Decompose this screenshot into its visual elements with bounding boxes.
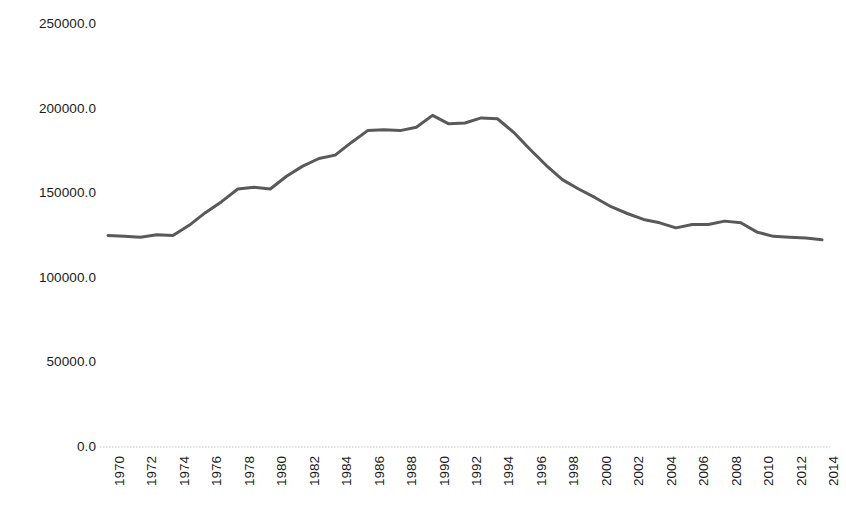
- x-axis-tick-label: 1978: [243, 456, 257, 486]
- x-axis-tick-label: 1990: [438, 456, 452, 486]
- x-axis-tick-label: 1998: [567, 456, 581, 486]
- x-axis-tick-label: 1972: [145, 456, 159, 486]
- line-chart: 0.050000.0100000.0150000.0200000.0250000…: [0, 0, 846, 517]
- x-axis-tick-label: 2008: [730, 456, 744, 486]
- x-axis-tick-label: 1984: [340, 456, 354, 486]
- x-axis-tick-label: 1974: [178, 456, 192, 486]
- x-axis-tick-label: 1994: [502, 456, 516, 486]
- x-axis-tick-label: 1970: [113, 456, 127, 486]
- x-axis-tick-label: 2006: [697, 456, 711, 486]
- x-axis-tick-label: 1986: [373, 456, 387, 486]
- x-axis-tick-label: 1996: [535, 456, 549, 486]
- x-axis-tick-label: 2002: [632, 456, 646, 486]
- x-axis-tick-label: 1976: [210, 456, 224, 486]
- x-axis-tick-label: 1988: [405, 456, 419, 486]
- x-axis-tick-label: 2014: [827, 456, 841, 486]
- x-axis-tick-label: 1992: [470, 456, 484, 486]
- x-axis-tick-label: 1982: [308, 456, 322, 486]
- x-axis-tick-label: 1980: [275, 456, 289, 486]
- x-axis-tick-label: 2010: [762, 456, 776, 486]
- x-axis-tick-label: 2012: [795, 456, 809, 486]
- x-axis-tick-label: 2000: [600, 456, 614, 486]
- x-axis-tick-labels: 1970197219741976197819801982198419861988…: [0, 0, 846, 517]
- x-axis-tick-label: 2004: [665, 456, 679, 486]
